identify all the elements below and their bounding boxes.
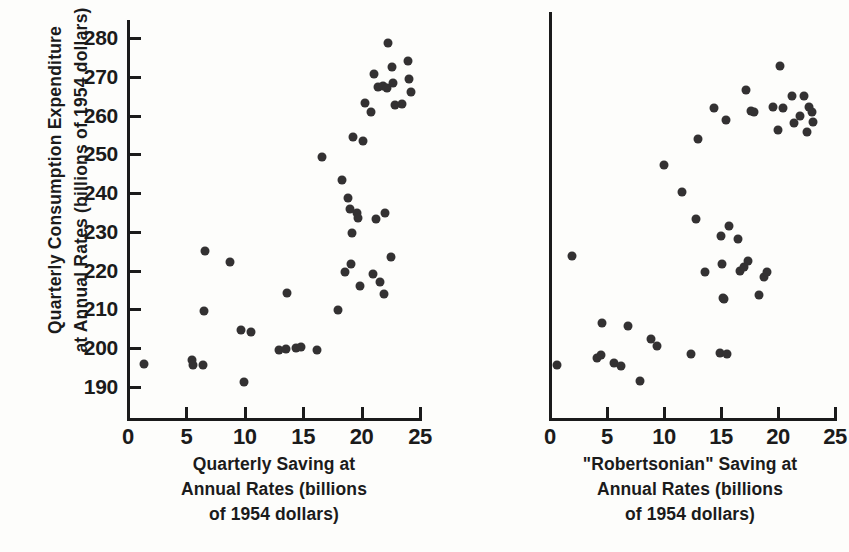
right-x-tick-label: 15 [709, 424, 733, 450]
right-x-tick [720, 407, 723, 419]
data-point [694, 134, 703, 143]
data-point [724, 221, 733, 230]
right-scatter-panel: 0510152025 "Robertsonian" Saving at Annu… [0, 0, 849, 552]
data-point [750, 107, 759, 116]
right-x-tick-label: 25 [823, 424, 847, 450]
data-point [567, 251, 576, 260]
data-point [623, 322, 632, 331]
data-point [754, 291, 763, 300]
right-x-axis-line [549, 418, 837, 421]
data-point [616, 362, 625, 371]
data-point [653, 341, 662, 350]
data-point [717, 232, 726, 241]
data-point [800, 92, 809, 101]
data-point [721, 116, 730, 125]
right-x-tick [777, 407, 780, 419]
right-x-tick-label: 20 [766, 424, 790, 450]
data-point [787, 92, 796, 101]
data-point [734, 234, 743, 243]
right-x-tick [834, 407, 837, 419]
data-point [802, 127, 811, 136]
data-point [809, 117, 818, 126]
data-point [774, 126, 783, 135]
data-point [597, 350, 606, 359]
data-point [762, 268, 771, 277]
figure-scatter-pair: Quarterly Consumption Expenditure at Ann… [0, 0, 849, 552]
data-point [722, 349, 731, 358]
right-x-tick [549, 407, 552, 419]
right-x-tick-label: 5 [601, 424, 613, 450]
data-point [701, 268, 710, 277]
right-x-tick [663, 407, 666, 419]
right-x-tick-label: 10 [652, 424, 676, 450]
data-point [678, 187, 687, 196]
data-point [718, 260, 727, 269]
right-x-title-line-3: of 1954 dollars) [583, 502, 797, 527]
right-x-axis-title: "Robertsonian" Saving at Annual Rates (b… [583, 452, 797, 527]
data-point [742, 85, 751, 94]
right-x-tick-label: 0 [544, 424, 556, 450]
data-point [552, 360, 561, 369]
data-point [778, 103, 787, 112]
right-y-axis-line [549, 12, 552, 420]
data-point [710, 103, 719, 112]
right-x-title-line-1: "Robertsonian" Saving at [583, 452, 797, 477]
data-point [598, 319, 607, 328]
right-x-title-line-2: Annual Rates (billions [583, 477, 797, 502]
data-point [769, 102, 778, 111]
data-point [720, 295, 729, 304]
data-point [795, 112, 804, 121]
data-point [687, 350, 696, 359]
data-point [636, 377, 645, 386]
right-x-tick [606, 407, 609, 419]
data-point [691, 214, 700, 223]
data-point [744, 256, 753, 265]
data-point [660, 160, 669, 169]
data-point [776, 61, 785, 70]
data-point [808, 108, 817, 117]
